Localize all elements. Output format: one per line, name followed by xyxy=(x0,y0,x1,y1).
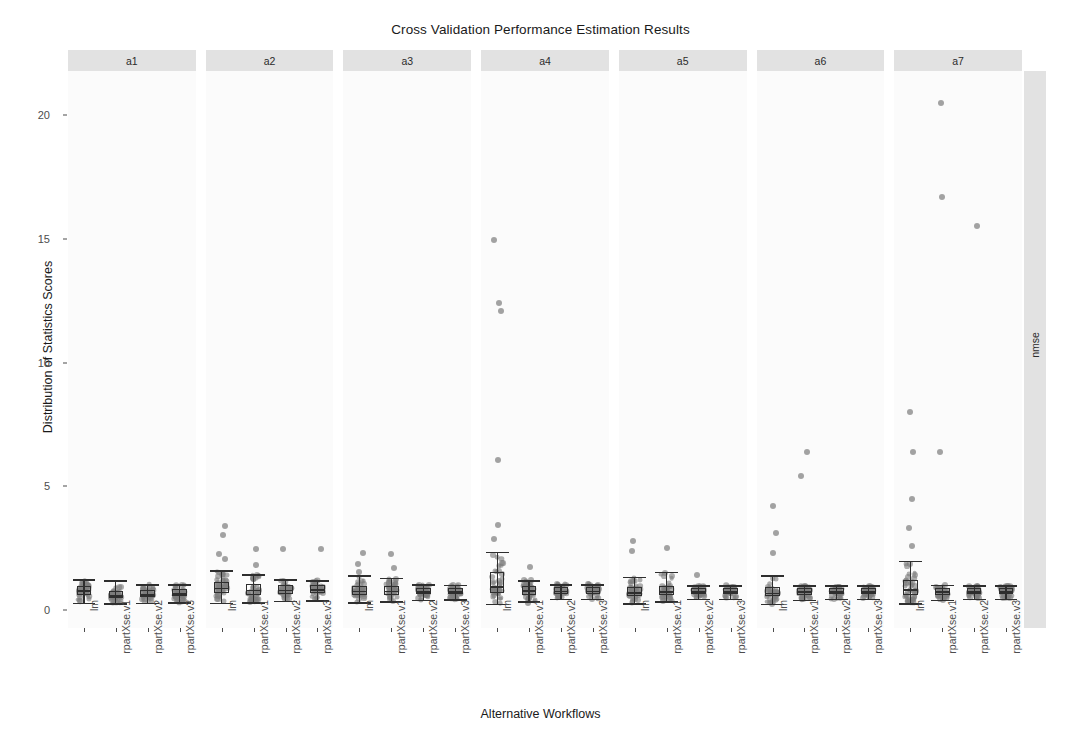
outlier-point xyxy=(527,564,533,570)
boxplot-whisker-cap xyxy=(104,580,127,582)
facet-panel-a6 xyxy=(757,71,885,628)
boxplot-median xyxy=(627,592,642,594)
x-tick-mark xyxy=(699,628,700,632)
x-tick-mark xyxy=(423,628,424,632)
outlier-point xyxy=(253,546,259,552)
metric-strip: nmse xyxy=(1024,71,1046,628)
x-tick-label-lm[interactable]: lm xyxy=(501,600,513,700)
boxplot-whisker-cap xyxy=(719,585,742,587)
outlier-point xyxy=(495,457,501,463)
x-tick-mark xyxy=(359,628,360,632)
x-tick-label-lm[interactable]: lm xyxy=(914,600,926,700)
x-tick-mark xyxy=(455,628,456,632)
x-tick-label-rpartXse.v3[interactable]: rpartXse.v3 xyxy=(735,600,747,700)
outlier-point xyxy=(356,569,362,575)
boxplot-whisker-cap xyxy=(963,585,986,587)
page-title: Cross Validation Performance Estimation … xyxy=(0,22,1081,37)
x-tick-label-rpartXse.v1[interactable]: rpartXse.v1 xyxy=(946,600,958,700)
boxplot-whisker-cap xyxy=(274,579,297,581)
x-tick-mark xyxy=(286,628,287,632)
facet-panel-a1 xyxy=(68,71,196,628)
x-axis-title: Alternative Workflows xyxy=(0,707,1081,721)
x-tick-label-rpartXse.v2[interactable]: rpartXse.v2 xyxy=(565,600,577,700)
outlier-point xyxy=(280,546,286,552)
boxplot-whisker-cap xyxy=(306,580,329,582)
x-tick-label-rpartXse.v1[interactable]: rpartXse.v1 xyxy=(671,600,683,700)
x-tick-mark xyxy=(116,628,117,632)
x-tick-label-rpartXse.v1[interactable]: rpartXse.v1 xyxy=(120,600,132,700)
boxplot-whisker-cap xyxy=(825,585,848,587)
boxplot-median xyxy=(416,591,431,593)
jitter-point xyxy=(500,560,506,566)
x-tick-label-lm[interactable]: lm xyxy=(777,600,789,700)
outlier-point xyxy=(491,536,497,542)
y-tick-mark xyxy=(63,238,67,239)
x-tick-mark xyxy=(148,628,149,632)
x-tick-mark xyxy=(910,628,911,632)
outlier-point xyxy=(318,546,324,552)
x-tick-label-rpartXse.v3[interactable]: rpartXse.v3 xyxy=(597,600,609,700)
x-tick-label-rpartXse.v2[interactable]: rpartXse.v2 xyxy=(703,600,715,700)
outlier-point xyxy=(907,409,913,415)
x-tick-label-lm[interactable]: lm xyxy=(363,600,375,700)
y-tick-mark xyxy=(63,486,67,487)
x-tick-label-lm[interactable]: lm xyxy=(639,600,651,700)
x-tick-label-rpartXse.v2[interactable]: rpartXse.v2 xyxy=(290,600,302,700)
boxplot-median xyxy=(140,594,155,596)
outlier-point xyxy=(220,532,226,538)
x-tick-label-lm[interactable]: lm xyxy=(226,600,238,700)
facet-panel-a4 xyxy=(481,71,609,628)
boxplot-whisker-cap xyxy=(793,585,816,587)
x-tick-label-rpartXse.v2[interactable]: rpartXse.v2 xyxy=(152,600,164,700)
x-tick-label-rpartXse.v3[interactable]: rpartXse.v3 xyxy=(1010,600,1022,700)
x-tick-label-rpartXse.v2[interactable]: rpartXse.v2 xyxy=(427,600,439,700)
x-tick-label-rpartXse.v1[interactable]: rpartXse.v1 xyxy=(395,600,407,700)
x-tick-label-lm[interactable]: lm xyxy=(88,600,100,700)
outlier-point xyxy=(253,562,259,568)
x-tick-mark xyxy=(497,628,498,632)
x-tick-label-rpartXse.v3[interactable]: rpartXse.v3 xyxy=(321,600,333,700)
boxplot-whisker-cap xyxy=(857,585,880,587)
outlier-point xyxy=(491,237,497,243)
boxplot-median xyxy=(903,589,918,591)
boxplot-median xyxy=(172,593,187,595)
boxplot-whisker-cap xyxy=(73,579,96,581)
x-tick-mark xyxy=(773,628,774,632)
boxplot-median xyxy=(214,588,229,590)
x-tick-label-rpartXse.v1[interactable]: rpartXse.v1 xyxy=(533,600,545,700)
x-tick-label-rpartXse.v3[interactable]: rpartXse.v3 xyxy=(459,600,471,700)
outlier-point xyxy=(630,538,636,544)
outlier-point xyxy=(388,551,394,557)
boxplot-median xyxy=(723,591,738,593)
facet-panel-a5 xyxy=(619,71,747,628)
outlier-point xyxy=(360,550,366,556)
x-tick-mark xyxy=(804,628,805,632)
boxplot-whisker-cap xyxy=(412,584,435,586)
x-tick-label-rpartXse.v3[interactable]: rpartXse.v3 xyxy=(872,600,884,700)
boxplot-median xyxy=(352,591,367,593)
outlier-point xyxy=(391,565,397,571)
x-tick-label-rpartXse.v2[interactable]: rpartXse.v2 xyxy=(840,600,852,700)
jitter-point xyxy=(310,594,315,599)
boxplot-median xyxy=(246,590,261,592)
outlier-point xyxy=(496,300,502,306)
outlier-point xyxy=(694,572,700,578)
outlier-point xyxy=(222,523,228,529)
outlier-point xyxy=(495,522,501,528)
boxplot-median xyxy=(861,591,876,593)
x-tick-mark xyxy=(254,628,255,632)
boxplot-median xyxy=(935,591,950,593)
x-tick-label-rpartXse.v3[interactable]: rpartXse.v3 xyxy=(184,600,196,700)
facet-strip-a7: a7 xyxy=(894,50,1022,71)
x-tick-mark xyxy=(635,628,636,632)
boxplot-median xyxy=(490,586,505,588)
x-tick-label-rpartXse.v1[interactable]: rpartXse.v1 xyxy=(808,600,820,700)
jitter-point xyxy=(912,572,918,578)
boxplot-whisker-cap xyxy=(242,574,265,576)
x-tick-mark xyxy=(222,628,223,632)
x-tick-label-rpartXse.v2[interactable]: rpartXse.v2 xyxy=(978,600,990,700)
facet-panel-a2 xyxy=(206,71,334,628)
boxplot-box xyxy=(490,572,505,594)
boxplot-whisker-cap xyxy=(655,572,678,574)
x-tick-label-rpartXse.v1[interactable]: rpartXse.v1 xyxy=(258,600,270,700)
